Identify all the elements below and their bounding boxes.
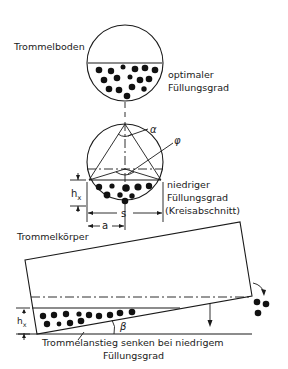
- material-particles: [96, 65, 159, 100]
- alpha-leader: [128, 129, 148, 136]
- alpha-triangle-left: [89, 124, 125, 180]
- label-trommelkoerper: Trommelkörper: [16, 231, 89, 242]
- material-particles-low: [96, 183, 152, 205]
- caption-line-2: Füllungsgrad: [103, 350, 164, 361]
- drum-filling-diagram: Trommelboden optimaler Füllungsgrad: [0, 0, 288, 369]
- phi-triangle-right: [125, 169, 161, 180]
- label-low-1: niedriger: [167, 179, 210, 190]
- phi-symbol: φ: [174, 135, 181, 146]
- gravity-arrow-head: [208, 320, 213, 327]
- low-filling-circle: [87, 122, 173, 204]
- label-optimal-2: Füllungsgrad: [168, 82, 229, 93]
- discharge-arrow-head: [261, 289, 266, 296]
- s-symbol: s: [121, 208, 126, 219]
- label-trommelboden: Trommelboden: [13, 41, 85, 52]
- label-low-3: (Kreisabschnitt): [165, 205, 240, 216]
- beta-angle-arc: [112, 320, 115, 334]
- optimal-filling-circle: [87, 25, 163, 101]
- hx-label: hx: [71, 188, 82, 202]
- beta-symbol: β: [119, 321, 127, 332]
- a-symbol: a: [102, 220, 108, 231]
- phi-triangle-left: [89, 169, 125, 180]
- label-optimal-1: optimaler: [168, 69, 214, 80]
- hx-label-drum: hx: [17, 316, 27, 329]
- caption-line-1: Trommelanstieg senken bei niedrigem: [41, 337, 224, 348]
- discharged-particles: [254, 299, 270, 317]
- alpha-symbol: α: [150, 124, 157, 135]
- label-low-2: Füllungsgrad: [167, 192, 228, 203]
